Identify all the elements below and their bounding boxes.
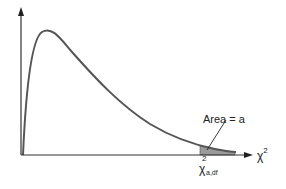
x-axis-exponent: 2 [263, 146, 267, 155]
chi-square-diagram [0, 0, 286, 189]
critical-value-symbol: χ [199, 163, 205, 175]
x-axis-label: χ2 [257, 148, 268, 163]
y-axis-arrow-icon [18, 7, 24, 16]
area-annotation: Area = a [203, 113, 245, 125]
x-axis-arrow-icon [244, 152, 253, 158]
critical-value-subscript: a,df [206, 169, 218, 176]
density-curve [23, 30, 236, 155]
